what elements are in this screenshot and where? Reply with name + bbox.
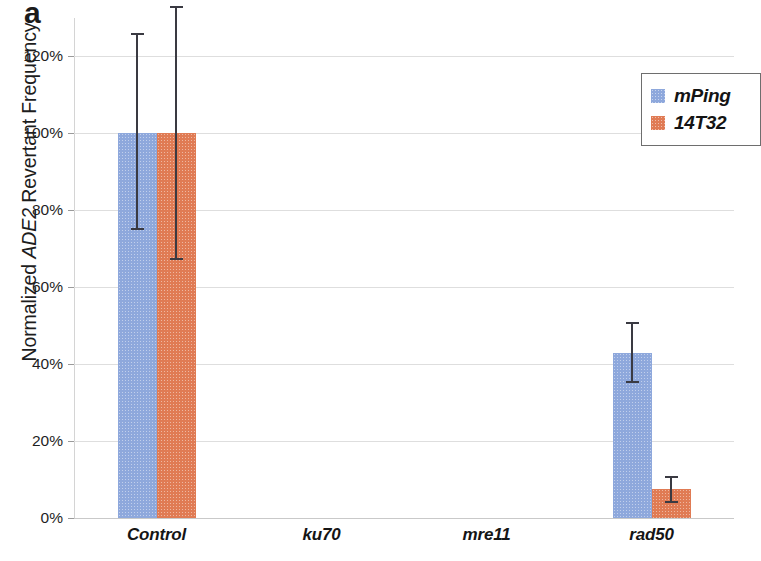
y-axis-tick [68, 133, 74, 134]
gridline [74, 518, 734, 519]
legend-swatch-14t32 [651, 116, 665, 130]
x-axis-tick-label: rad50 [629, 525, 673, 545]
x-axis-tick-label: mre11 [463, 525, 511, 545]
y-axis-title-prefix: Normalized [18, 259, 40, 362]
y-axis-tick [68, 441, 74, 442]
plot-area: 0%20%40%60%80%100%120%Controlku70mre11ra… [74, 18, 734, 518]
y-axis-tick [68, 210, 74, 211]
y-axis-tick-label: 120% [23, 47, 63, 65]
error-bar [622, 322, 642, 384]
y-axis-tick-label: 40% [32, 355, 63, 373]
y-axis-tick [68, 518, 74, 519]
error-bar [661, 476, 681, 503]
plot-inner: 0%20%40%60%80%100%120%Controlku70mre11ra… [74, 18, 734, 518]
legend-label-14t32: 14T32 [674, 112, 726, 134]
error-bar-cap-top [170, 6, 183, 8]
error-bar-stem [175, 6, 177, 260]
error-bar-cap-top [626, 322, 639, 324]
legend-item-mping: mPing [651, 82, 750, 109]
error-bar [127, 33, 147, 229]
y-axis-tick-label: 0% [41, 509, 63, 527]
error-bar-cap-bottom [131, 228, 144, 230]
y-axis-tick-label: 20% [32, 432, 63, 450]
error-bar-cap-bottom [665, 501, 678, 503]
y-axis-tick [68, 56, 74, 57]
error-bar-cap-top [131, 33, 144, 35]
x-axis-tick-label: Control [127, 525, 186, 545]
error-bar [166, 6, 186, 260]
error-bar-cap-bottom [626, 381, 639, 383]
y-axis-tick [68, 287, 74, 288]
y-axis-line [74, 18, 75, 518]
y-axis-tick-label: 100% [23, 124, 63, 142]
y-axis-tick-label: 80% [32, 201, 63, 219]
legend-item-14t32: 14T32 [651, 109, 750, 136]
error-bar-cap-bottom [170, 258, 183, 260]
legend-swatch-mping [651, 89, 665, 103]
y-axis-tick [68, 364, 74, 365]
error-bar-stem [670, 476, 672, 503]
x-axis-tick-label: ku70 [303, 525, 341, 545]
error-bar-stem [631, 322, 633, 384]
error-bar-stem [136, 33, 138, 229]
error-bar-cap-top [665, 476, 678, 478]
y-axis-tick-label: 60% [32, 278, 63, 296]
legend: mPing 14T32 [641, 73, 761, 146]
legend-label-mping: mPing [674, 85, 731, 107]
